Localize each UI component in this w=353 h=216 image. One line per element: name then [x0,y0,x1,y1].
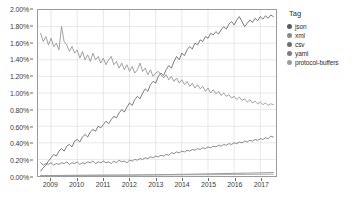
y-tick-mark [30,109,33,110]
y-tick-mark [30,143,33,144]
legend-item-label: json [295,23,307,30]
legend-items: jsonxmlcsvyamlprotocol-buffers [287,22,353,66]
legend-item-protocol-buffers[interactable]: protocol-buffers [287,58,353,66]
tag-trend-chart: 0.00%0.20%0.40%0.60%0.80%1.00%1.20%1.40%… [0,0,353,216]
legend-item-label: yaml [295,50,308,57]
y-tick-mark [30,76,33,77]
x-tick-label: 2013 [148,181,163,188]
y-axis: 0.00%0.20%0.40%0.60%0.80%1.00%1.20%1.40%… [0,9,33,177]
y-tick-mark [30,59,33,60]
legend-swatch-icon [287,51,292,56]
x-tick-label: 2012 [122,181,137,188]
y-tick-label: 1.60% [10,39,29,46]
x-axis: 200920102011201220132014201520162017 [37,178,277,192]
x-tick-label: 2010 [69,181,84,188]
y-tick-label: 0.40% [10,140,29,147]
x-tick-label: 2015 [201,181,216,188]
x-tick-label: 2017 [254,181,269,188]
x-tick-label: 2009 [43,181,58,188]
legend-swatch-icon [287,42,292,47]
legend-item-label: csv [295,41,304,48]
y-tick-mark [30,42,33,43]
legend: Tag jsonxmlcsvyamlprotocol-buffers [287,9,353,67]
legend-item-label: protocol-buffers [295,59,338,66]
legend-title: Tag [287,9,353,18]
y-tick-label: 0.00% [10,174,29,181]
legend-item-label: xml [295,32,305,39]
legend-swatch-icon [287,33,292,38]
y-tick-label: 1.20% [10,73,29,80]
x-tick-label: 2014 [175,181,190,188]
legend-item-csv[interactable]: csv [287,40,353,48]
y-tick-label: 0.60% [10,123,29,130]
x-tick-label: 2011 [96,181,110,188]
y-tick-mark [30,160,33,161]
legend-item-xml[interactable]: xml [287,31,353,39]
y-tick-label: 2.00% [10,6,29,13]
y-tick-label: 1.80% [10,22,29,29]
legend-item-json[interactable]: json [287,22,353,30]
y-tick-label: 1.40% [10,56,29,63]
y-tick-mark [30,93,33,94]
series-line-xml [41,27,274,106]
y-tick-label: 0.80% [10,106,29,113]
plot-area [37,9,277,177]
plot-svg [38,10,276,176]
legend-swatch-icon [287,60,292,65]
legend-item-yaml[interactable]: yaml [287,49,353,57]
y-tick-mark [30,25,33,26]
y-tick-label: 0.20% [10,157,29,164]
x-tick-label: 2016 [227,181,242,188]
legend-swatch-icon [287,24,292,29]
y-tick-mark [30,126,33,127]
y-tick-mark [30,9,33,10]
y-tick-mark [30,177,33,178]
y-tick-label: 1.00% [10,90,29,97]
